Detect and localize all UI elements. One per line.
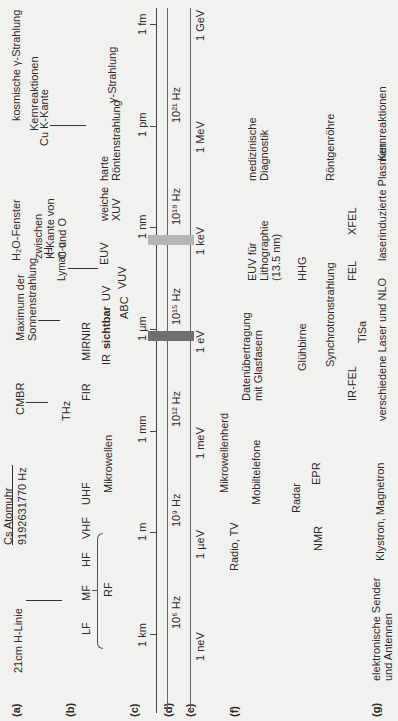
app-fiber-2: mit Glasfasern: [252, 330, 264, 401]
h2o-desc-1: zwischen: [32, 214, 44, 259]
row-label-d: (d): [162, 703, 174, 717]
cmbr-label: CMBR: [14, 383, 26, 415]
h-line-arrow: [26, 600, 62, 601]
energy-tick-label: 1 GeV: [194, 10, 206, 41]
tick: [150, 532, 156, 533]
energy-tick-label: 1 eV: [194, 330, 206, 353]
source-fel: FEL: [346, 261, 358, 281]
band-euv: EUV: [98, 242, 110, 265]
row-label-f: (f): [228, 706, 240, 717]
cs-clock-divider: [12, 465, 13, 545]
wavelength-tick-label: 1 nm: [136, 215, 148, 239]
band-gamma: γ-Strahlung: [106, 47, 118, 103]
app-microwave-oven: Mikrowellenherd: [218, 413, 230, 493]
h-line-label: 21cm H-Linie: [12, 608, 24, 673]
source-glow-bulb: Glühbirne: [296, 323, 308, 371]
sun-max-arrow: [38, 320, 60, 321]
app-medical-1: medizinische: [246, 117, 258, 181]
wavelength-tick-label: 1 mm: [136, 416, 148, 444]
source-klystron: Klystron, Magnetron: [374, 463, 386, 561]
energy-tick-label: 1 µeV: [194, 530, 206, 559]
lyman-arrow: [68, 268, 98, 269]
row-label-a: (a): [10, 704, 22, 717]
band-nir: NIR: [80, 322, 92, 341]
energy-tick-label: 1 neV: [194, 632, 206, 661]
wavelength-tick-label: 1 pm: [136, 113, 148, 137]
band-vuv: VUV: [116, 266, 128, 289]
tick: [150, 329, 156, 330]
source-xfel: XFEL: [346, 207, 358, 235]
cu-k-arrow: [50, 125, 86, 126]
energy-axis: [190, 8, 191, 713]
tick: [150, 431, 156, 432]
tick: [150, 227, 156, 228]
energy-tick-label: 1 keV: [194, 227, 206, 255]
xray-dash: -: [100, 189, 112, 193]
tick: [150, 634, 156, 635]
soft-xuv-2: XUV: [110, 198, 122, 221]
source-ir-fel: IR-FEL: [346, 366, 358, 401]
nuclear-reactions-top: Kernreaktionen: [28, 56, 40, 131]
band-ir: IR: [100, 354, 112, 365]
h2o-desc-2: K-Kante von: [44, 198, 56, 259]
frequency-tick-label: 10¹² Hz: [170, 391, 182, 427]
wavelength-tick-label: 1 km: [136, 623, 148, 647]
band-rf: RF: [102, 582, 114, 597]
frequency-tick-label: 10²¹ Hz: [170, 87, 182, 123]
cosmic-gamma-label: kosmische γ-Strahlung: [10, 10, 22, 121]
band-microwaves: Mikrowellen: [102, 435, 114, 493]
app-fiber-1: Datenübertragung: [240, 312, 252, 401]
frequency-tick-label: 10⁶ Hz: [170, 596, 182, 629]
h2o-window-label: H₂O-Fenster: [10, 199, 22, 261]
band-vhf: VHF: [80, 517, 92, 539]
energy-tick-label: 1 meV: [194, 427, 206, 459]
frequency-tick-label: 10¹⁵ Hz: [170, 288, 182, 325]
hard-xray-2: Röntenstrahlung: [110, 100, 122, 181]
band-hf: HF: [80, 552, 92, 567]
hard-xray-1: harte: [98, 156, 110, 181]
source-xray-tube: Röntgenröhre: [324, 114, 336, 181]
em-spectrum-diagram: (a) (b) (c) (d) (e) (f) (g) 21cm H-Linie…: [0, 0, 398, 721]
wavelength-tick-label: 1 µm: [136, 316, 148, 341]
row-label-g: (g): [370, 703, 382, 717]
energy-tick-label: 1 MeV: [194, 121, 206, 153]
app-radar: Radar: [290, 483, 302, 513]
h2o-desc-3: C und O: [56, 218, 68, 259]
band-lf: LF: [80, 622, 92, 635]
band-uhf: UHF: [80, 482, 92, 505]
cmbr-arrow: [26, 402, 48, 403]
source-tisa: TiSa: [356, 321, 368, 343]
visible-band: [148, 331, 194, 341]
app-euv-litho-1: EUV für: [246, 242, 258, 281]
app-mobile: Mobiltelefone: [250, 440, 262, 505]
app-euv-litho-2: Lithographie: [258, 220, 270, 281]
app-euv-litho-3: (13.5 nm): [270, 234, 282, 281]
wavelength-tick-label: 1 fm: [136, 14, 148, 35]
source-synchrotron: Synchrotronstrahlung: [324, 262, 336, 367]
band-uv: UV: [100, 286, 112, 301]
band-mir: MIR: [80, 341, 92, 361]
band-thz: THz: [60, 401, 72, 421]
water-window-band: [148, 235, 194, 245]
band-uv-abc: ABC: [118, 296, 130, 319]
cs-frequency: 9192631770 Hz: [16, 467, 28, 545]
source-hhg: HHG: [296, 257, 308, 281]
frequency-tick-label: 10⁹ Hz: [170, 494, 182, 527]
source-lasers: verschiedene Laser und NLO: [376, 278, 388, 421]
source-electronic-2: und Antennen: [382, 613, 394, 681]
sun-max-line1: Maximum der: [14, 274, 26, 341]
band-mf: MF: [80, 585, 92, 601]
row-label-c: (c): [128, 704, 140, 717]
band-fir: FIR: [80, 383, 92, 401]
row-label-b: (b): [64, 703, 76, 717]
wavelength-tick-label: 1 m: [136, 523, 148, 541]
app-medical-2: Diagnostik: [258, 130, 270, 181]
source-laser-plasma: laserinduzierte Plasmen: [376, 144, 388, 261]
tick: [150, 126, 156, 127]
source-nuclear: Kernreaktionen: [376, 86, 388, 161]
frequency-axis: [167, 8, 168, 713]
app-nmr: NMR: [312, 526, 324, 551]
sun-max-line2: Sonnenstrahlung: [26, 258, 38, 341]
app-epr: EPR: [310, 462, 322, 485]
wavelength-axis: [156, 8, 157, 713]
